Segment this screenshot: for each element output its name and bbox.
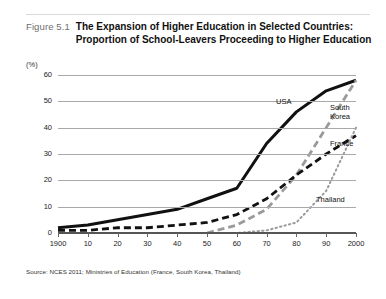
x-tick-label: 20 [105, 239, 131, 248]
x-tick [118, 233, 119, 237]
x-tick-label: 50 [194, 239, 220, 248]
x-tick-label: 70 [254, 239, 280, 248]
y-axis-unit-label: (%) [26, 60, 38, 69]
gridline [58, 154, 356, 155]
x-tick-label: 1900 [45, 239, 71, 248]
top-divider [26, 14, 370, 15]
y-tick-label: 20 [30, 175, 52, 184]
figure-number: Figure 5.1 [26, 20, 76, 32]
series-label-usa: USA [276, 97, 291, 106]
gridline [58, 101, 356, 102]
x-tick [88, 233, 89, 237]
x-tick [237, 233, 238, 237]
x-tick-label: 90 [313, 239, 339, 248]
source-note: Source: NCES 2011; Ministries of Educati… [26, 268, 241, 275]
gridline [58, 207, 356, 208]
figure-container: Figure 5.1 The Expansion of Higher Educa… [0, 0, 386, 299]
series-label-thailand: Thailand [316, 195, 345, 204]
figure-header: Figure 5.1 The Expansion of Higher Educa… [26, 20, 374, 46]
x-tick-label: 60 [224, 239, 250, 248]
y-tick-label: 0 [30, 228, 52, 237]
title-line-1: The Expansion of Higher Education in Sel… [76, 20, 372, 33]
title-line-2: Proportion of School-Leavers Proceeding … [76, 33, 372, 46]
y-tick-label: 10 [30, 202, 52, 211]
x-tick-label: 2000 [343, 239, 369, 248]
x-tick [58, 233, 59, 237]
x-tick [177, 233, 178, 237]
gridline [58, 75, 356, 76]
x-tick [356, 233, 357, 237]
y-tick-label: 30 [30, 149, 52, 158]
series-label-south-korea: South Korea [330, 103, 350, 121]
series-line-france [58, 136, 356, 231]
x-tick-label: 10 [75, 239, 101, 248]
gridline [58, 128, 356, 129]
x-tick-label: 40 [164, 239, 190, 248]
plot-region: 010203040506019001020304050607080902000U… [58, 75, 356, 233]
series-label-france: France [330, 139, 353, 148]
x-tick [147, 233, 148, 237]
x-tick [267, 233, 268, 237]
y-tick-label: 50 [30, 96, 52, 105]
page-title: The Expansion of Higher Education in Sel… [76, 20, 372, 46]
x-tick [326, 233, 327, 237]
x-tick-label: 80 [283, 239, 309, 248]
x-tick [207, 233, 208, 237]
chart-area: 010203040506019001020304050607080902000U… [26, 70, 370, 256]
x-tick [296, 233, 297, 237]
x-tick-label: 30 [134, 239, 160, 248]
y-tick-label: 40 [30, 123, 52, 132]
y-tick-label: 60 [30, 70, 52, 79]
gridline [58, 180, 356, 181]
